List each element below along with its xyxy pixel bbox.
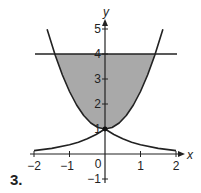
- x-tick-label: 0: [95, 157, 102, 171]
- x-tick-label: −2: [27, 159, 41, 173]
- y-tick-label: 3: [94, 72, 101, 86]
- x-axis-arrow-icon: [178, 151, 185, 157]
- y-tick-label: 4: [94, 47, 101, 61]
- y-tick-label: 1: [94, 122, 101, 136]
- y-tick-label: 2: [94, 97, 101, 111]
- graph: −2 −1 0 1 2 −1 1 2 3 4 5 x y 3.: [0, 0, 201, 193]
- y-axis-arrow-icon: [102, 19, 108, 26]
- y-tick-label: −1: [87, 172, 101, 186]
- x-tick-label: 2: [173, 159, 180, 173]
- problem-number: 3.: [10, 171, 23, 188]
- x-tick-label: −1: [60, 159, 74, 173]
- y-tick-label: 5: [94, 22, 101, 36]
- y-axis-label: y: [102, 5, 110, 19]
- x-axis-label: x: [186, 148, 194, 162]
- intersection-point: [103, 127, 108, 132]
- right-exponential: [105, 129, 176, 151]
- x-tick-label: 1: [137, 159, 144, 173]
